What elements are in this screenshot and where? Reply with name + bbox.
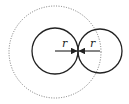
right-radius-label: r	[90, 37, 96, 50]
left-radius-label: r	[62, 37, 68, 50]
circles-diagram: r r	[0, 0, 129, 104]
dotted-enclosing-circle	[9, 6, 101, 98]
diagram-canvas: r r	[0, 0, 129, 104]
